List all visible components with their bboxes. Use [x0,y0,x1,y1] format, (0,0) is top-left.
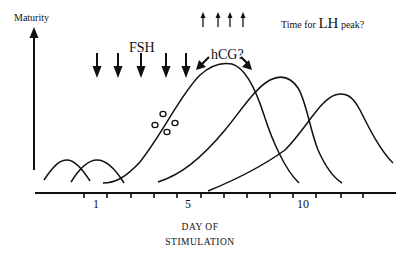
hcg-left-arrow-icon [196,57,209,70]
follicle-curves [44,63,393,191]
lh-arrows [201,12,246,27]
fsh-arrows [93,53,191,78]
lh-label-main: LH [318,15,338,31]
lh-peak-label: Time for LH peak? [281,15,364,32]
follicle-curve-1 [44,160,90,181]
fsh-arrow-icon [93,53,102,78]
fsh-arrow-icon [114,53,123,78]
oocyte-icon [152,122,158,127]
lh-label-prefix: Time for [281,19,316,30]
lh-arrow-icon [216,12,221,27]
fsh-arrow-icon [182,53,191,78]
follicle-curve-5 [208,94,393,191]
y-axis-arrow [30,27,39,170]
lh-arrow-icon [241,12,246,27]
follicle-curve-3 [103,63,299,183]
x-axis-title: DAY OF STIMULATION [150,220,250,250]
x-tick-label-1: 1 [93,197,99,212]
x-axis [35,193,396,198]
oocyte-icons [152,111,178,134]
x-axis-title-line1: DAY OF [150,220,250,235]
x-axis-title-line2: STIMULATION [150,235,250,250]
oocyte-icon [164,129,170,134]
x-tick-label-10: 10 [297,197,309,212]
oocyte-icon [172,120,178,125]
lh-arrow-icon [201,12,206,27]
oocyte-icon [160,111,166,116]
fsh-arrow-icon [137,53,146,78]
y-axis-label: Maturity [14,12,49,23]
lh-label-suffix: peak? [341,19,364,30]
follicle-curve-2 [71,160,124,183]
fsh-arrow-icon [162,53,171,78]
diagram-canvas [0,0,405,253]
fsh-label: FSH [129,40,155,56]
hcg-label: hCG? [211,47,244,63]
lh-arrow-icon [228,12,233,27]
x-tick-label-5: 5 [185,197,191,212]
